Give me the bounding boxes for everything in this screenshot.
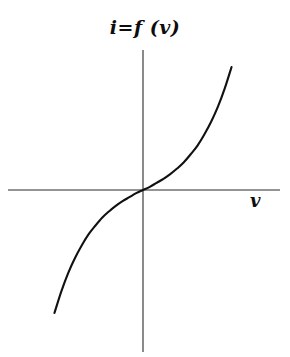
x-axis-label: v: [250, 192, 260, 210]
iv-characteristic-figure: i=f (v) v: [0, 0, 290, 357]
curve-equation-title: i=f (v): [0, 18, 290, 37]
plot-background: [0, 0, 290, 357]
plot-canvas: [0, 0, 290, 357]
